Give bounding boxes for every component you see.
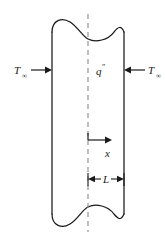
- left-temp-symbol: T: [14, 64, 21, 76]
- diagram-canvas: T ∞ T ∞ q ″ x L: [0, 0, 165, 245]
- right-temperature-label: T ∞: [148, 64, 161, 80]
- right-convection-arrow: [124, 67, 145, 74]
- x-axis-label: x: [104, 147, 110, 159]
- left-temp-subscript: ∞: [22, 72, 27, 80]
- x-axis-arrow: [88, 133, 112, 143]
- plane-wall-diagram: T ∞ T ∞ q ″ x L: [0, 0, 165, 245]
- dimension-label: L: [102, 173, 109, 185]
- heat-generation-label: q ″: [96, 63, 105, 77]
- top-break-curve: [52, 20, 124, 41]
- heat-generation-superscript: ″: [102, 63, 105, 72]
- right-temp-subscript: ∞: [156, 72, 161, 80]
- right-temp-symbol: T: [148, 64, 155, 76]
- left-convection-arrow: [31, 67, 52, 74]
- left-temperature-label: T ∞: [14, 64, 27, 80]
